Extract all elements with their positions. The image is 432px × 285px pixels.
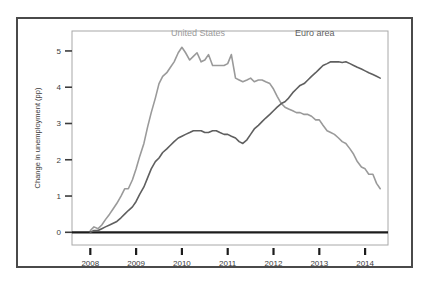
x-axis-tick-label: 2011 (219, 259, 237, 268)
x-axis-tick-label: 2008 (81, 259, 99, 268)
x-axis-tick-label: 2012 (265, 259, 283, 268)
x-axis-tick-label: 2014 (356, 259, 374, 268)
y-axis-tick-label: 1 (57, 192, 62, 201)
y-axis-tick-label: 0 (57, 228, 62, 237)
y-axis-title: Change in unemployment (pp) (33, 87, 42, 188)
y-axis-tick-label: 3 (57, 119, 62, 128)
line-chart: 0123452008200920102011201220132014Change… (0, 0, 432, 285)
y-axis-tick-label: 2 (57, 156, 62, 165)
x-axis-tick-label: 2009 (127, 259, 145, 268)
series-label-euro-area: Euro area (295, 28, 335, 38)
y-axis-tick-label: 4 (57, 83, 62, 92)
plot-area (72, 31, 388, 245)
x-axis-tick-label: 2013 (310, 259, 328, 268)
y-axis-tick-label: 5 (57, 47, 62, 56)
x-axis-tick-label: 2010 (173, 259, 191, 268)
series-label-united-states: United States (171, 28, 226, 38)
chart-figure: 0123452008200920102011201220132014Change… (0, 0, 432, 285)
